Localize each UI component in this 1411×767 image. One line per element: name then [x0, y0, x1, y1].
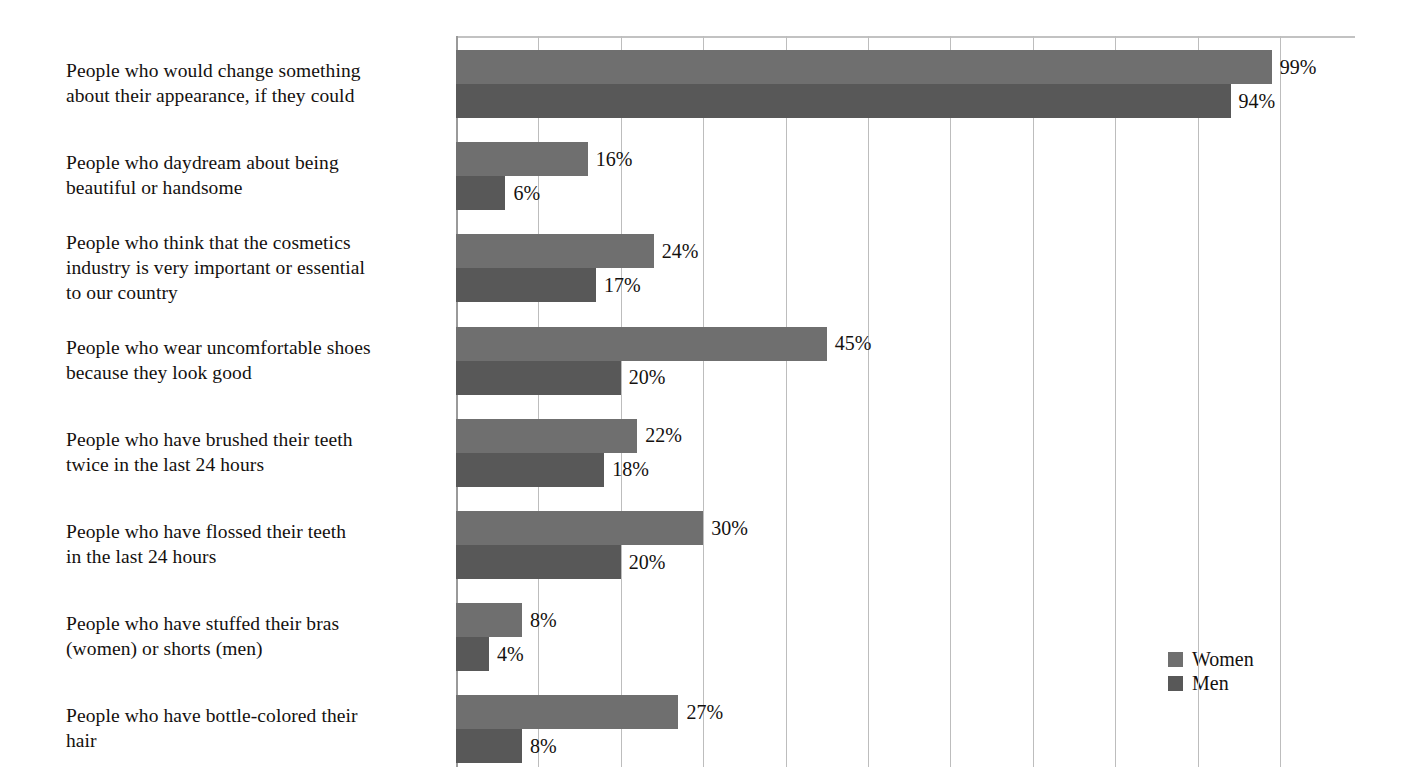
bar-value-label: 99% — [1272, 50, 1317, 84]
category-label-line: hair — [66, 728, 456, 753]
category-label: People who think that the cosmeticsindus… — [66, 230, 456, 305]
bar-value-label: 22% — [637, 419, 682, 453]
bar-women — [456, 50, 1272, 84]
category-label-line: beautiful or handsome — [66, 175, 456, 200]
gridline-90 — [1198, 36, 1199, 767]
bar-men — [456, 176, 505, 210]
bar-men — [456, 453, 604, 487]
bar-value-label: 20% — [621, 361, 666, 395]
category-label-line: People who have flossed their teeth — [66, 519, 456, 544]
category-label: People who daydream about beingbeautiful… — [66, 150, 456, 200]
category-label-line: People who would change something — [66, 58, 456, 83]
category-label: People who would change somethingabout t… — [66, 58, 456, 108]
bar-women — [456, 142, 588, 176]
bar-women — [456, 419, 637, 453]
chart-legend: WomenMen — [1168, 648, 1254, 696]
category-label-line: to our country — [66, 280, 456, 305]
gridline-50 — [868, 36, 869, 767]
category-label: People who have brushed their teethtwice… — [66, 427, 456, 477]
legend-label: Women — [1192, 649, 1254, 669]
category-label-line: (women) or shorts (men) — [66, 636, 456, 661]
bar-value-label: 8% — [522, 603, 557, 637]
category-label-line: People who have brushed their teeth — [66, 427, 456, 452]
gridline-80 — [1115, 36, 1116, 767]
category-label-line: about their appearance, if they could — [66, 83, 456, 108]
gridline-60 — [950, 36, 951, 767]
bar-men — [456, 84, 1231, 118]
legend-swatch-icon — [1168, 676, 1183, 691]
bar-men — [456, 361, 621, 395]
category-label-line: because they look good — [66, 360, 456, 385]
bar-value-label: 94% — [1231, 84, 1276, 118]
gridline-70 — [1033, 36, 1034, 767]
bar-value-label: 45% — [827, 327, 872, 361]
bar-value-label: 6% — [505, 176, 540, 210]
category-label: People who wear uncomfortable shoesbecau… — [66, 335, 456, 385]
bar-women — [456, 234, 654, 268]
horizontal-bar-chart: People who would change somethingabout t… — [0, 0, 1411, 767]
bar-men — [456, 268, 596, 302]
legend-item: Women — [1168, 648, 1254, 670]
bar-men — [456, 637, 489, 671]
category-label-column: People who would change somethingabout t… — [0, 0, 456, 767]
bar-value-label: 20% — [621, 545, 666, 579]
category-label-line: twice in the last 24 hours — [66, 452, 456, 477]
category-label-line: People who have stuffed their bras — [66, 611, 456, 636]
category-label: People who have stuffed their bras(women… — [66, 611, 456, 661]
bar-women — [456, 327, 827, 361]
bar-value-label: 8% — [522, 729, 557, 763]
category-label: People who have bottle-colored theirhair — [66, 703, 456, 753]
category-label: People who have flossed their teethin th… — [66, 519, 456, 569]
bar-women — [456, 695, 678, 729]
bar-men — [456, 545, 621, 579]
bar-value-label: 24% — [654, 234, 699, 268]
bar-value-label: 27% — [678, 695, 723, 729]
legend-item: Men — [1168, 672, 1254, 694]
bar-value-label: 4% — [489, 637, 524, 671]
gridline-100 — [1280, 36, 1281, 767]
bar-value-label: 17% — [596, 268, 641, 302]
bar-value-label: 18% — [604, 453, 649, 487]
bar-value-label: 30% — [703, 511, 748, 545]
category-label-line: in the last 24 hours — [66, 544, 456, 569]
category-label-line: People who wear uncomfortable shoes — [66, 335, 456, 360]
bar-value-label: 16% — [588, 142, 633, 176]
category-label-line: People who think that the cosmetics — [66, 230, 456, 255]
category-label-line: industry is very important or essential — [66, 255, 456, 280]
legend-swatch-icon — [1168, 652, 1183, 667]
gridline-30 — [703, 36, 704, 767]
category-label-line: People who daydream about being — [66, 150, 456, 175]
bar-men — [456, 729, 522, 763]
gridline-40 — [786, 36, 787, 767]
bar-women — [456, 603, 522, 637]
bar-women — [456, 511, 703, 545]
category-label-line: People who have bottle-colored their — [66, 703, 456, 728]
